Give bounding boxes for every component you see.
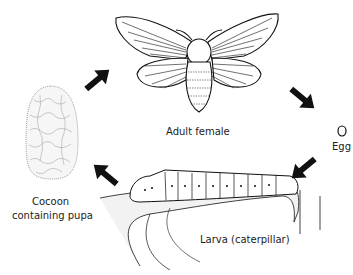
egg-label: Egg [332, 140, 351, 153]
larva-illustration [100, 170, 320, 270]
larva-label: Larva (caterpillar) [200, 233, 290, 246]
adult-moth-illustration [116, 14, 278, 112]
cocoon-illustration [26, 86, 78, 179]
life-cycle-diagram: Adult female Egg Larva (caterpillar) Coc… [0, 0, 353, 275]
arrow-cocoon-to-adult [80, 63, 115, 96]
egg-illustration [338, 126, 346, 136]
adult-female-label: Adult female [166, 125, 230, 138]
cocoon-label-line1: Cocoon [32, 195, 69, 208]
arrow-adult-to-egg [285, 82, 320, 115]
arrow-larva-to-cocoon [88, 158, 123, 191]
cocoon-label-line2: containing pupa [12, 209, 93, 222]
